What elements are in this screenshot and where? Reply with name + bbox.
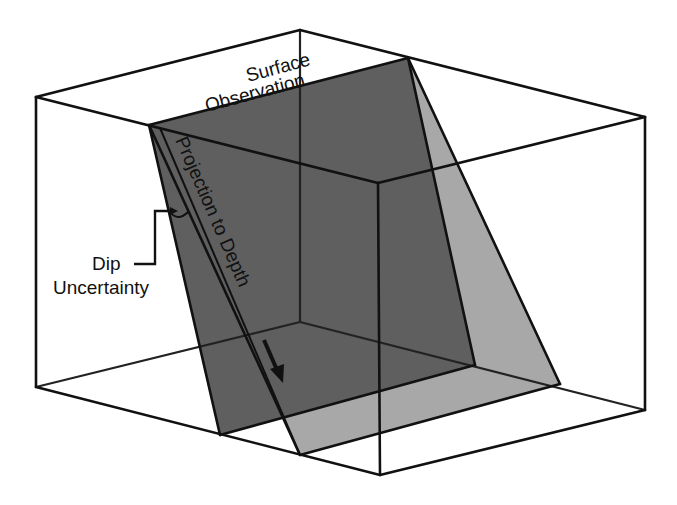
block-diagram: Surface Observation Projection to Depth … [0,0,677,505]
uncertainty-label: Uncertainty [53,277,150,298]
dip-label: Dip [92,253,121,274]
dip-leader-line [134,211,172,264]
